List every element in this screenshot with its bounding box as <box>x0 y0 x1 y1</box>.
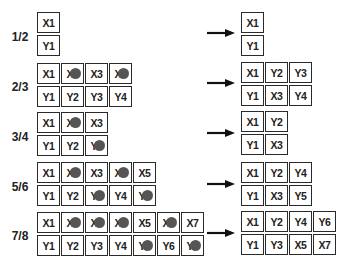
punctured-cell: X4 <box>109 63 132 84</box>
output-bottom-row: Y1X3Y4 <box>241 85 313 106</box>
y-row: Y1 <box>37 35 61 56</box>
cell-label: Y1 <box>42 190 54 202</box>
output-cell: Y1 <box>241 134 264 155</box>
cell-label: Y1 <box>42 40 54 52</box>
cell-label: Y6 <box>318 216 330 228</box>
punctured-dot-icon <box>142 240 153 251</box>
cell-label: Y6 <box>162 240 174 252</box>
bit-cell: Y2 <box>61 135 84 156</box>
cell-label: X3 <box>270 139 282 151</box>
output-cell: Y6 <box>313 211 336 232</box>
punctured-cell: X4 <box>109 162 132 183</box>
code-rate-label: 3/4 <box>6 130 34 144</box>
code-rate-label: 5/6 <box>6 180 34 194</box>
output-cell: Y1 <box>241 234 264 255</box>
y-row: Y1Y2Y3Y4 <box>37 86 133 107</box>
output-cell: Y2 <box>265 111 288 132</box>
punctured-output-grid: X1Y2Y4Y6Y1Y3X5X7 <box>241 211 337 255</box>
cell-label: X3 <box>90 167 102 179</box>
punctured-cell: X2 <box>61 162 84 183</box>
right-arrow-icon <box>207 229 235 237</box>
output-top-row: X1 <box>241 12 265 33</box>
punctured-dot-icon <box>70 167 81 178</box>
punctured-cell: Y5 <box>133 235 156 256</box>
mother-code-grid: X1X2X3X4X5Y1Y2Y3Y4Y5 <box>37 162 157 206</box>
output-cell: X1 <box>241 162 264 183</box>
output-cell: Y1 <box>241 35 264 56</box>
bit-cell: X1 <box>37 63 60 84</box>
cell-label: Y1 <box>246 139 258 151</box>
output-cell: Y1 <box>241 185 264 206</box>
bit-cell: X3 <box>85 162 108 183</box>
cell-label: Y1 <box>42 140 54 152</box>
cell-label: Y1 <box>246 190 258 202</box>
bit-cell: X1 <box>37 212 60 233</box>
cell-label: Y1 <box>246 90 258 102</box>
bit-cell: Y2 <box>61 235 84 256</box>
bit-cell: Y2 <box>61 86 84 107</box>
code-rate-label: 2/3 <box>6 80 34 94</box>
output-cell: Y2 <box>265 62 288 83</box>
output-cell: Y3 <box>289 62 312 83</box>
cell-label: Y4 <box>114 91 126 103</box>
punctured-cell: X2 <box>61 112 84 133</box>
cell-label: Y4 <box>294 90 306 102</box>
output-cell: X1 <box>241 62 264 83</box>
cell-label: Y3 <box>90 91 102 103</box>
y-row: Y1Y2Y3Y4Y5Y6Y7 <box>37 235 205 256</box>
output-bottom-row: Y1Y3X5X7 <box>241 234 337 255</box>
output-top-row: X1Y2Y4 <box>241 162 313 183</box>
output-cell: X3 <box>265 134 288 155</box>
bit-cell: Y3 <box>85 86 108 107</box>
bit-cell: X1 <box>37 12 60 33</box>
cell-label: X1 <box>42 117 54 129</box>
bit-cell: Y3 <box>85 235 108 256</box>
bit-cell: X5 <box>133 162 156 183</box>
output-cell: X1 <box>241 211 264 232</box>
cell-label: Y3 <box>270 239 282 251</box>
cell-label: Y1 <box>246 40 258 52</box>
right-arrow-icon <box>207 129 235 137</box>
bit-cell: Y4 <box>109 235 132 256</box>
cell-label: Y2 <box>270 67 282 79</box>
punctured-cell: X2 <box>61 63 84 84</box>
punctured-cell: X6 <box>157 212 180 233</box>
output-cell: X3 <box>265 85 288 106</box>
cell-label: Y4 <box>294 167 306 179</box>
punctured-output-grid: X1Y2Y3Y1X3Y4 <box>241 62 313 106</box>
punctured-output-grid: X1Y2Y4Y1X3Y5 <box>241 162 313 206</box>
x-row: X1X2X3X4 <box>37 63 133 84</box>
cell-label: Y5 <box>294 190 306 202</box>
x-row: X1X2X3X4X5 <box>37 162 157 183</box>
cell-label: X1 <box>42 167 54 179</box>
punctured-dot-icon <box>118 217 129 228</box>
cell-label: Y4 <box>294 216 306 228</box>
cell-label: Y4 <box>114 190 126 202</box>
output-cell: Y2 <box>265 211 288 232</box>
cell-label: X1 <box>42 17 54 29</box>
code-rate-label: 7/8 <box>6 229 34 243</box>
cell-label: X1 <box>42 68 54 80</box>
bit-cell: Y4 <box>109 86 132 107</box>
punctured-dot-icon <box>70 117 81 128</box>
x-row: X1X2X3 <box>37 112 109 133</box>
output-cell: Y4 <box>289 162 312 183</box>
cell-label: Y1 <box>42 91 54 103</box>
output-cell: X7 <box>313 234 336 255</box>
cell-label: X3 <box>90 68 102 80</box>
bit-cell: X7 <box>181 212 204 233</box>
output-cell: Y4 <box>289 211 312 232</box>
cell-label: X1 <box>246 116 258 128</box>
punctured-dot-icon <box>70 68 81 79</box>
cell-label: Y3 <box>90 240 102 252</box>
cell-label: X3 <box>270 190 282 202</box>
bit-cell: X1 <box>37 112 60 133</box>
output-cell: X3 <box>265 185 288 206</box>
output-bottom-row: Y1X3Y5 <box>241 185 313 206</box>
cell-label: X1 <box>246 67 258 79</box>
cell-label: X1 <box>246 167 258 179</box>
punctured-cell: Y3 <box>85 185 108 206</box>
mother-code-grid: X1X2X3X4X5X6X7Y1Y2Y3Y4Y5Y6Y7 <box>37 212 205 256</box>
bit-cell: Y6 <box>157 235 180 256</box>
output-cell: X1 <box>241 111 264 132</box>
